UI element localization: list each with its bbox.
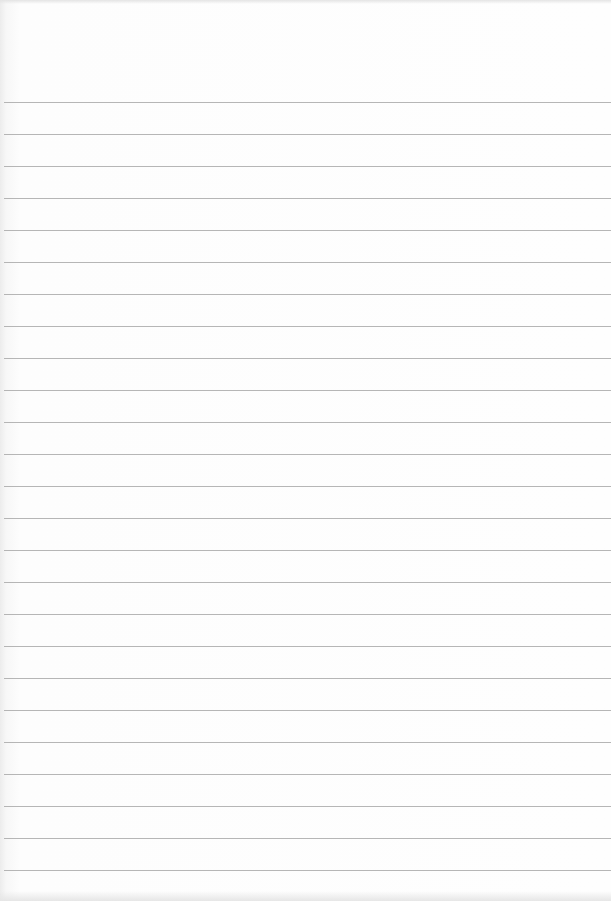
ruled-line	[4, 710, 611, 711]
ruled-line	[4, 646, 611, 647]
ruled-line	[4, 166, 611, 167]
ruled-line	[4, 198, 611, 199]
ruled-line	[4, 742, 611, 743]
ruled-line	[4, 390, 611, 391]
ruled-line	[4, 294, 611, 295]
ruled-line	[4, 774, 611, 775]
ruled-line	[4, 614, 611, 615]
ruled-line	[4, 262, 611, 263]
ruled-line	[4, 134, 611, 135]
ruled-line	[4, 230, 611, 231]
ruled-line	[4, 678, 611, 679]
ruled-line	[4, 454, 611, 455]
ruled-line	[4, 838, 611, 839]
ruled-line	[4, 326, 611, 327]
ruled-line	[4, 870, 611, 871]
ruled-line	[4, 102, 611, 103]
ruled-line	[4, 358, 611, 359]
ruled-line	[4, 518, 611, 519]
ruled-line	[4, 550, 611, 551]
ruled-line	[4, 422, 611, 423]
lined-paper-sheet	[0, 0, 611, 901]
ruled-line	[4, 582, 611, 583]
paper-top-edge	[0, 0, 611, 4]
paper-bottom-edge	[0, 891, 611, 901]
ruled-line	[4, 806, 611, 807]
ruled-line	[4, 486, 611, 487]
